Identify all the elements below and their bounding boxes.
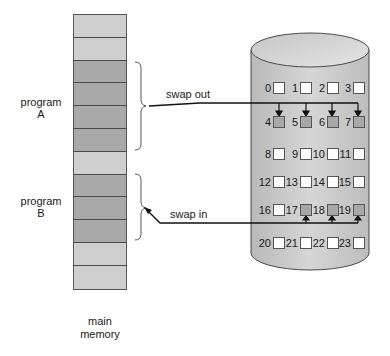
program-b-label: program B [10,195,72,219]
disk-block-7 [353,116,365,128]
memory-row-program-a [74,129,126,152]
main-memory-label: main memory [70,315,130,341]
memory-row-program-a [74,61,126,84]
memory-row-program-a [74,83,126,106]
memory-row-program-b [74,197,126,220]
disk-block-19 [353,204,365,216]
memory-row [74,15,126,38]
memory-row [74,266,126,289]
memory-row-program-a [74,106,126,129]
program-a-label: program A [10,96,72,120]
disk-block-11 [353,148,365,160]
memory-row-program-b [74,220,126,243]
disk-block-23 [353,237,365,249]
swap-in-label: swap in [170,208,230,220]
memory-row [74,243,126,266]
memory-row-program-b [74,175,126,198]
disk-block-15 [353,176,365,188]
memory-row [74,152,126,175]
swapping-diagram: program A program B main memory swap out… [0,0,390,356]
main-memory-column [73,14,127,290]
swap-out-label: swap out [166,88,226,100]
program-b-brace [135,174,146,240]
memory-row [74,38,126,61]
disk-block-3 [353,82,365,94]
program-a-brace [135,62,146,150]
